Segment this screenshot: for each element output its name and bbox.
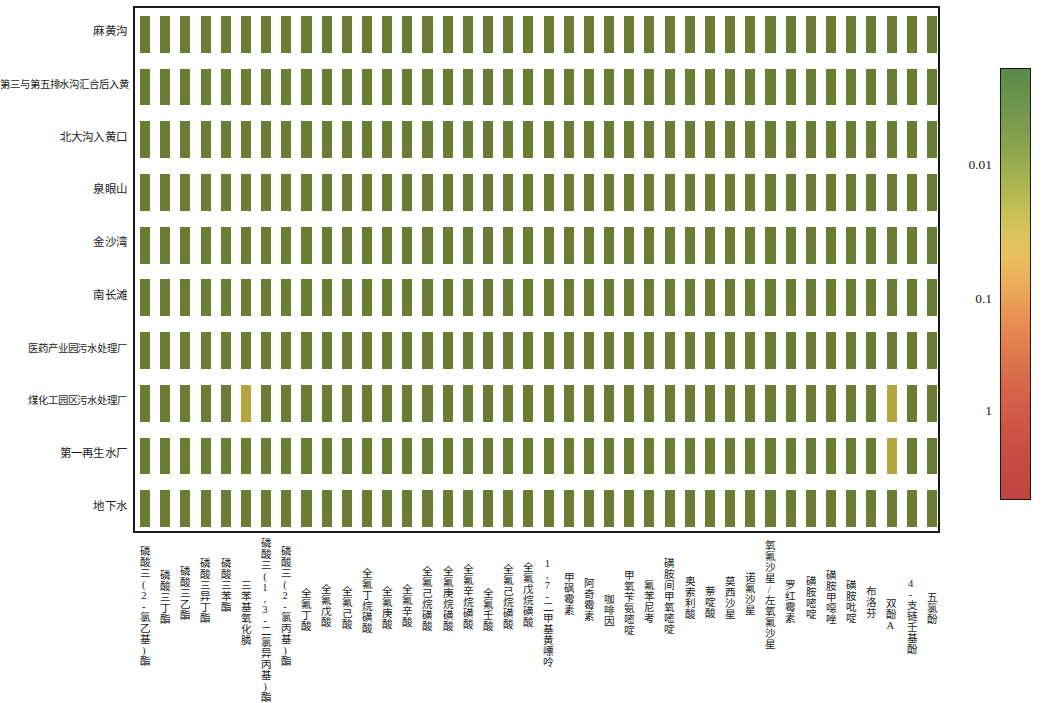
heatmap-cell [483,121,493,158]
column-label: 甲氧苄氨嘧啶 [622,570,633,636]
heatmap-cell [866,69,876,106]
heatmap-cell [685,385,695,422]
heatmap-cell [180,69,190,106]
heatmap-cell [725,438,735,475]
heatmap-cell [544,69,554,106]
heatmap-cell [382,69,392,106]
heatmap-cell [261,16,271,53]
heatmap-cell [483,16,493,53]
heatmap-cell [160,16,170,53]
heatmap-cell [705,69,715,106]
heatmap-cell [927,121,937,158]
heatmap-cell [402,385,412,422]
heatmap-cell [362,69,372,106]
heatmap-cell [503,227,513,264]
heatmap-cell [140,279,150,316]
heatmap-cell [402,332,412,369]
heatmap-cell [382,279,392,316]
heatmap-cell [201,385,211,422]
heatmap-cell [362,279,372,316]
heatmap-cell [564,69,574,106]
heatmap-cell [140,69,150,106]
heatmap-cell [483,438,493,475]
heatmap-cell [301,69,311,106]
heatmap-cell [221,490,231,527]
heatmap-cell [745,490,755,527]
heatmap-cell [846,227,856,264]
heatmap-cell [826,69,836,106]
heatmap-cell [544,490,554,527]
heatmap-cell [261,332,271,369]
heatmap-cell [301,438,311,475]
heatmap-cell [443,438,453,475]
heatmap-cell [382,16,392,53]
heatmap-cell [826,227,836,264]
heatmap-cell [544,121,554,158]
heatmap-cell [564,490,574,527]
heatmap-cell [422,227,432,264]
heatmap-cell [907,385,917,422]
heatmap-cell [201,16,211,53]
heatmap-cell [544,174,554,211]
heatmap-cell [604,227,614,264]
heatmap-cell [523,279,533,316]
heatmap-cell [382,490,392,527]
heatmap-cell [402,174,412,211]
row-label: 煤化工园区污水处理厂 [0,394,127,407]
column-label: 全氟己烷磺酸 [420,566,431,632]
heatmap-cell [443,332,453,369]
heatmap-cell [241,121,251,158]
heatmap-cell [140,385,150,422]
heatmap-cell [180,16,190,53]
heatmap-cell [685,332,695,369]
heatmap-cell [907,16,917,53]
column-label-axis: 磷酸三(2-氯乙基)酯磷酸三丁酯磷酸三乙酯磷酸三异丁酯磷酸三苯酯三苯基氧化膦磷酸… [133,536,940,674]
heatmap-cell [463,227,473,264]
heatmap-cell [584,69,594,106]
column-label: 1,7-二甲基黄嘌呤 [541,558,552,668]
heatmap-cell [281,490,291,527]
heatmap-cell [422,174,432,211]
heatmap-cell [443,227,453,264]
heatmap-cell [261,438,271,475]
heatmap-cell [765,385,775,422]
column-label: 全氟丁酸 [299,588,310,632]
row-label: 泉眼山 [0,183,127,196]
column-label: 全氟戊烷磺酸 [521,562,532,628]
column-label: 诺氟沙星 [743,572,754,616]
heatmap-cell [765,121,775,158]
heatmap-cell [887,490,897,527]
column-label: 罗红霉素 [783,580,794,624]
column-label: 全氟庚烷磺酸 [440,566,451,632]
heatmap-cell [523,385,533,422]
heatmap-cell [201,490,211,527]
heatmap-cell [342,438,352,475]
heatmap-cell [644,121,654,158]
heatmap-cell [463,279,473,316]
heatmap-cell [866,174,876,211]
heatmap-cell [362,490,372,527]
heatmap-cell [907,490,917,527]
heatmap-cell [705,227,715,264]
heatmap-cell [725,174,735,211]
column-label: 全氟己酸 [339,586,350,630]
heatmap-cell [160,121,170,158]
heatmap-cell [846,385,856,422]
heatmap-cell [322,490,332,527]
heatmap-cell [907,69,917,106]
heatmap-cell [241,490,251,527]
heatmap-cell [281,227,291,264]
heatmap-cell [907,174,917,211]
heatmap-cell [241,279,251,316]
heatmap-cell [826,438,836,475]
heatmap-cell [927,227,937,264]
heatmap-cell [544,438,554,475]
heatmap-cell [584,438,594,475]
column-label: 磷酸三丁酯 [158,570,169,625]
heatmap-cell [644,490,654,527]
heatmap-cell [604,332,614,369]
heatmap-cell [201,279,211,316]
heatmap-cell [281,438,291,475]
heatmap-cell [665,279,675,316]
heatmap-cell [745,438,755,475]
